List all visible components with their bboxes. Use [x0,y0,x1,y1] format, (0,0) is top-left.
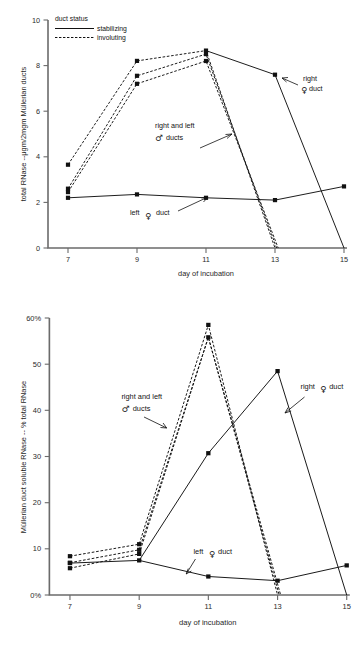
x-tick-15: 15 [343,602,351,611]
y-tick-0: 0 [36,244,40,253]
series-third-male-duct [68,61,278,248]
top-x-axis-title: day of incubation [178,269,234,278]
top-x-ticklabels: 7 9 11 13 15 [66,255,348,264]
bottom-annotation-left-female-duct: left ♀ duct [186,547,232,574]
bottom-y-axis-title: Müllerian duct soluble RNase -- % total … [19,381,28,533]
y-tick-4: 4 [36,152,40,161]
annot-left-female-line2: duct [218,547,232,556]
annot-right-female-line1: right [303,74,317,83]
bottom-data-markers [68,323,349,583]
y-tick-6: 6 [36,107,40,116]
annot-left-female-symbol: ♀ [209,549,215,559]
annot-left-female-line1: left [193,547,203,556]
annot-right-female-symbol: ♀ [301,85,307,95]
series-left-male-duct [70,337,279,595]
bottom-x-axis-title: day of incubation [179,618,237,627]
annot-right-female-line2: duct [309,84,323,93]
annot-right-female-line2: duct [329,382,343,391]
annot-male-symbol: ♂ [155,133,163,143]
series-right-female-duct [206,51,344,248]
y-tick-8: 8 [36,61,40,70]
bottom-y-ticklabels: 0% 10 20 30 40 50 60% [26,314,41,600]
legend-label-involuting: involuting [97,34,126,42]
top-annotation-left-female-duct: left ♀ duct [130,197,208,221]
top-y-ticklabels: 0 2 4 6 8 10 [32,16,40,253]
bottom-annotation-right-female-duct: right ♀ duct [285,382,343,413]
top-y-axis-title: total RNase --μgm/2mgm Müllerian ducts [19,66,28,201]
legend-label-stabilizing: stabilizing [97,25,127,33]
chart-bottom-soluble-rnase: 0% 10 20 30 40 50 60% 7 9 11 13 15 day o… [0,300,357,647]
chart-top-svg: 0 2 4 6 8 10 7 9 11 13 15 day of incubat… [0,0,357,300]
top-annotation-right-and-left-male-ducts: right and left ♂ ducts [155,121,232,148]
legend-title: duct status [55,15,88,22]
x-tick-9: 9 [135,255,139,264]
y-tick-60pct: 60% [26,314,41,323]
y-tick-40: 40 [33,406,41,415]
top-annotation-right-female-duct: right ♀ duct [282,74,323,95]
x-tick-15: 15 [340,255,348,264]
x-tick-13: 13 [271,255,279,264]
annot-male-line2: ducts [133,404,151,413]
annot-male-line1: right and left [121,392,162,401]
bottom-x-ticklabels: 7 9 11 13 15 [68,602,351,611]
annot-left-female-line1: left [130,208,140,217]
series-right-male-duct [70,325,278,595]
annot-left-female-line2: duct [156,208,170,217]
series-left-male-duct [68,54,277,248]
y-tick-10: 10 [33,545,41,554]
annot-male-line2: ducts [166,133,184,142]
series-right-female-duct [139,371,347,595]
chart-top-total-rnase: 0 2 4 6 8 10 7 9 11 13 15 day of incubat… [0,0,357,300]
series-right-male-duct [68,51,275,248]
x-tick-11: 11 [204,602,212,611]
top-axes [48,20,347,248]
annot-right-female-symbol: ♀ [320,384,326,394]
annot-male-symbol: ♂ [121,404,129,414]
y-tick-10: 10 [32,16,40,25]
x-tick-11: 11 [202,255,210,264]
y-tick-0pct: 0% [30,591,41,600]
x-tick-13: 13 [273,602,281,611]
y-tick-50: 50 [33,360,41,369]
y-tick-2: 2 [36,198,40,207]
x-tick-7: 7 [68,602,72,611]
y-tick-30: 30 [33,452,41,461]
annot-right-female-line1: right [300,382,314,391]
top-data-markers [66,49,346,203]
annot-male-line1: right and left [155,121,195,130]
chart-bottom-svg: 0% 10 20 30 40 50 60% 7 9 11 13 15 day o… [0,300,357,647]
top-legend: duct status stabilizing involuting [55,15,127,42]
y-tick-20: 20 [33,498,41,507]
annot-left-female-symbol: ♀ [145,211,151,221]
bottom-annotation-right-and-left-male-ducts: right and left ♂ ducts [121,392,166,428]
x-tick-7: 7 [66,255,70,264]
x-tick-9: 9 [137,602,141,611]
